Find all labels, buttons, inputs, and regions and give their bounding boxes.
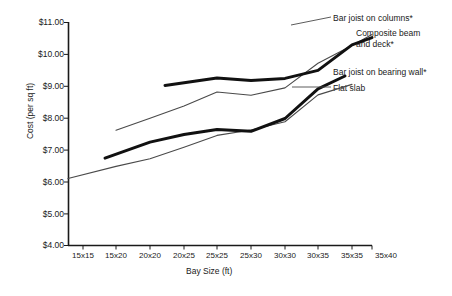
plot-canvas <box>0 0 452 296</box>
cost-vs-bay-size-chart: Cost (per sq ft) $11.00 $10.00 $9.00 $8.… <box>0 0 452 296</box>
y-axis-ticks <box>64 23 68 246</box>
series-lines <box>68 35 372 179</box>
series-bar-joist-on-bearing-wall <box>105 76 345 158</box>
axis-lines <box>68 22 372 246</box>
